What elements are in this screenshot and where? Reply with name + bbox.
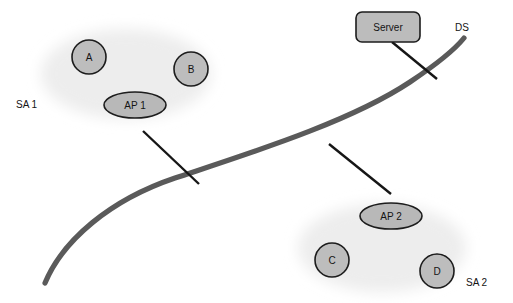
- network-diagram: Server AP 1 AP 2 A B C D SA 1: [0, 0, 513, 303]
- station-a[interactable]: A: [72, 40, 106, 74]
- station-d-label: D: [433, 266, 440, 277]
- server-node[interactable]: Server: [356, 12, 420, 42]
- station-b-label: B: [188, 64, 195, 75]
- sa1-area-label: SA 1: [16, 99, 38, 110]
- service-area-clouds: [41, 29, 466, 292]
- diagram-canvas: Server AP 1 AP 2 A B C D SA 1: [0, 0, 513, 303]
- station-c[interactable]: C: [315, 243, 349, 277]
- sa2-area-label: SA 2: [466, 277, 488, 288]
- ap1-label: AP 1: [124, 100, 146, 111]
- ap2-label: AP 2: [380, 211, 402, 222]
- link-ds-to-ap2: [329, 144, 391, 194]
- link-ap1-to-ds: [143, 131, 199, 184]
- station-b[interactable]: B: [174, 52, 208, 86]
- server-label: Server: [373, 22, 403, 33]
- station-c-label: C: [328, 255, 335, 266]
- station-a-label: A: [86, 52, 93, 63]
- ds-label: DS: [455, 22, 469, 33]
- link-server-to-ds: [392, 42, 437, 79]
- station-d[interactable]: D: [420, 254, 454, 288]
- access-point-ap1[interactable]: AP 1: [104, 92, 166, 118]
- access-point-ap2[interactable]: AP 2: [360, 203, 422, 229]
